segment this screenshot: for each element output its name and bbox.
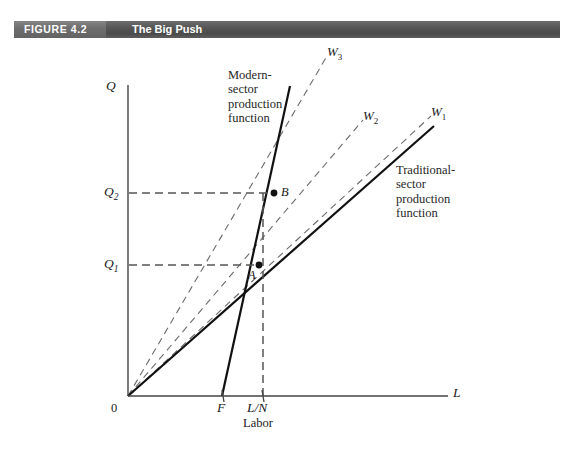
- curve-label-w2: W2: [363, 108, 378, 126]
- annotation-traditional-line-2: sector: [396, 177, 455, 191]
- x-axis-label: L: [453, 385, 461, 401]
- annotation-modern-line-1: Modern-: [228, 68, 282, 82]
- annotation-modern-line-4: function: [228, 111, 282, 125]
- x-axis-name-label: Labor: [243, 416, 273, 431]
- figure-title: The Big Push: [132, 23, 202, 35]
- annotation-traditional-sector: Traditional- sector production function: [396, 163, 455, 221]
- data-point-label-b: B: [281, 185, 289, 200]
- series-line-w2: [128, 120, 363, 396]
- series-line-modern-sector: [222, 86, 290, 396]
- origin-label: 0: [111, 401, 117, 416]
- figure-header-bar: FIGURE 4.2 The Big Push: [14, 21, 560, 38]
- figure-number-box: FIGURE 4.2: [14, 21, 106, 38]
- curve-label-w1: W1: [431, 104, 446, 122]
- figure-number-label: FIGURE 4.2: [24, 23, 87, 35]
- y-tick-label-q1: Q1: [104, 256, 119, 274]
- x-tick-label-ln: L/N: [247, 400, 267, 416]
- annotation-modern-sector: Modern- sector production function: [228, 68, 282, 126]
- y-tick-label-q2: Q2: [104, 184, 119, 202]
- annotation-modern-line-2: sector: [228, 82, 282, 96]
- chart-plot-area: Q L Q2 Q1 0 F L/N Labor W3 W2 W1 B A Mod…: [0, 38, 582, 448]
- chart-svg: [0, 38, 582, 448]
- x-tick-label-f: F: [217, 400, 225, 416]
- y-axis-label: Q: [106, 78, 116, 94]
- annotation-traditional-line-1: Traditional-: [396, 163, 455, 177]
- data-point-b: [271, 190, 278, 197]
- annotation-modern-line-3: production: [228, 97, 282, 111]
- data-point-label-a: A: [248, 268, 256, 283]
- data-point-a: [256, 262, 263, 269]
- curve-label-w3: W3: [327, 44, 342, 62]
- series-line-w1: [128, 116, 431, 396]
- annotation-traditional-line-3: production: [396, 192, 455, 206]
- annotation-traditional-line-4: function: [396, 206, 455, 220]
- figure-container: FIGURE 4.2 The Big Push: [0, 0, 582, 458]
- series-line-traditional-sector: [128, 126, 434, 396]
